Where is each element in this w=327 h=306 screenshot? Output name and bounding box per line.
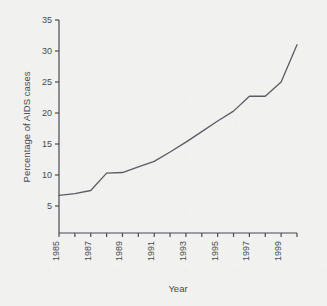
x-tick-label: 1985 [51, 241, 61, 261]
axis-spines [59, 20, 297, 233]
y-tick-label: 20 [42, 108, 52, 118]
x-tick-label: 1995 [210, 241, 220, 261]
y-tick-label: 25 [42, 77, 52, 87]
y-tick-label: 35 [42, 15, 52, 25]
data-series-line [59, 45, 297, 196]
x-axis: 19851987198919911993199519971999 [51, 233, 297, 261]
x-tick-label: 1989 [114, 241, 124, 261]
y-tick-label: 5 [47, 201, 52, 211]
y-axis-title: Percentage of AIDS cases [21, 71, 32, 182]
x-axis-title: Year [168, 283, 187, 294]
x-tick-label: 1999 [273, 241, 283, 261]
x-tick-label: 1991 [146, 241, 156, 261]
y-tick-label: 30 [42, 46, 52, 56]
y-tick-label: 10 [42, 170, 52, 180]
y-tick-label: 15 [42, 139, 52, 149]
chart-figure: 5101520253035 19851987198919911993199519… [0, 0, 327, 306]
x-tick-label: 1997 [241, 241, 251, 261]
x-tick-label: 1993 [178, 241, 188, 261]
y-axis: 5101520253035 [42, 15, 59, 211]
x-tick-label: 1987 [83, 241, 93, 261]
line-chart: 5101520253035 19851987198919911993199519… [0, 0, 327, 306]
